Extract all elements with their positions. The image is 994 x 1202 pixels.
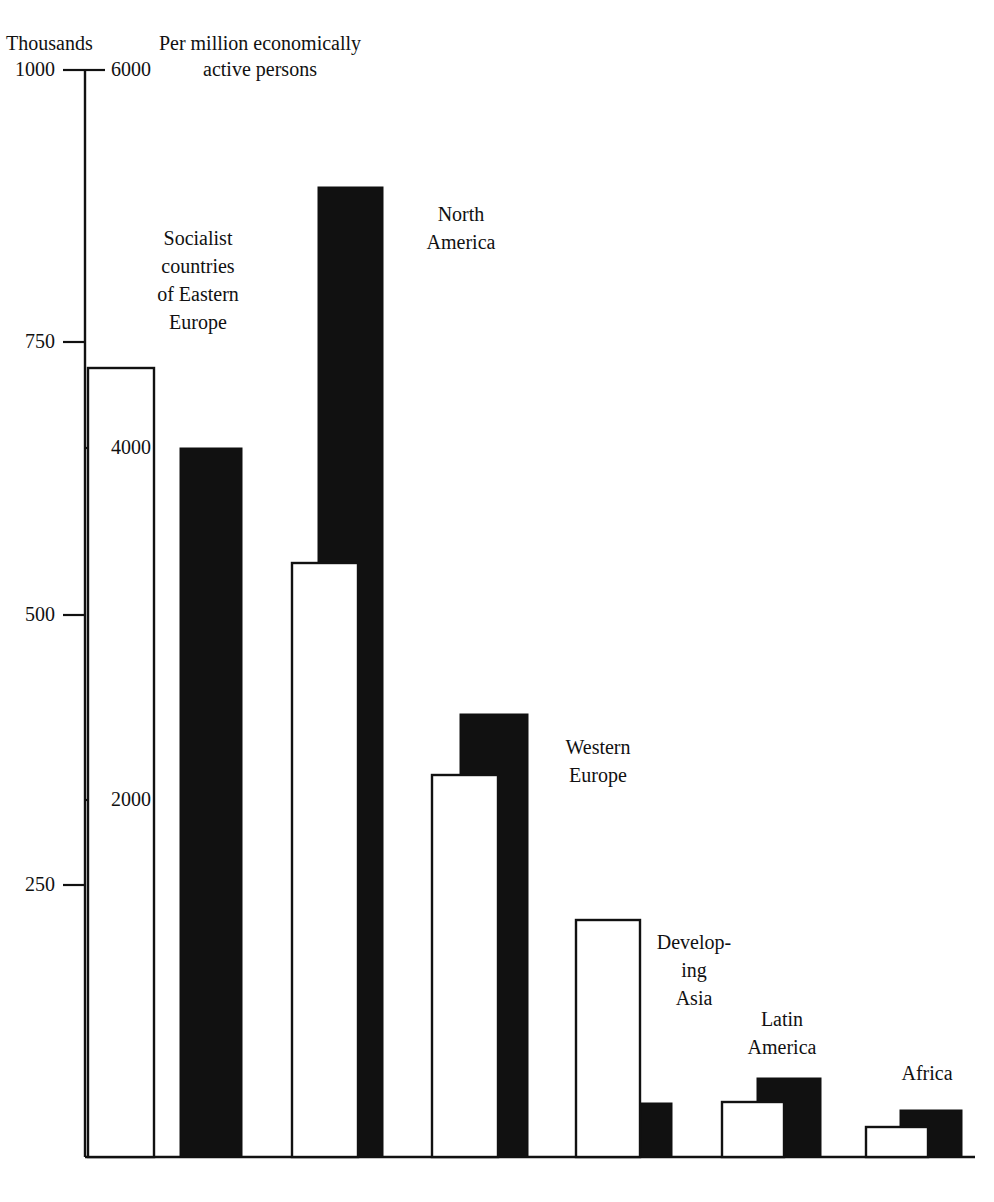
bar-group-label-line: Develop-: [657, 931, 731, 953]
bar-group-label-line: Africa: [901, 1062, 952, 1084]
bar-group-label-line: countries: [161, 255, 234, 277]
bar-group-label-3: Develop-ingAsia: [634, 928, 754, 1012]
chart-root: Thousands Per million economically activ…: [0, 0, 994, 1202]
left-tick-label-3: 250: [0, 874, 55, 894]
bar-group-label-1: NorthAmerica: [396, 200, 526, 256]
left-tick-label-2: 500: [0, 604, 55, 624]
bar-group-label-line: Latin: [761, 1008, 803, 1030]
bar-group-label-4: LatinAmerica: [716, 1005, 848, 1061]
bar-group-label-line: Socialist: [164, 227, 233, 249]
bar-white-5: [866, 1127, 928, 1157]
bar-white-2: [432, 775, 498, 1157]
bar-white-3: [576, 920, 640, 1157]
bar-white-0: [88, 368, 154, 1157]
bar-group-label-line: North: [438, 203, 485, 225]
bar-group-label-line: Asia: [676, 987, 713, 1009]
right-tick-label-1: 4000: [111, 437, 151, 457]
right-tick-label-0: 6000: [111, 59, 151, 79]
bar-black-0: [180, 448, 242, 1157]
bar-group-label-line: America: [427, 231, 496, 253]
bar-group-label-line: of Eastern: [157, 283, 239, 305]
bar-group-label-line: Western: [565, 736, 630, 758]
bar-group-label-line: Europe: [169, 311, 227, 333]
right-tick-label-2: 2000: [111, 789, 151, 809]
left-tick-label-1: 750: [0, 331, 55, 351]
bar-group-label-line: America: [748, 1036, 817, 1058]
left-tick-label-0: 1000: [0, 59, 55, 79]
bar-group-label-line: Europe: [569, 764, 627, 786]
bar-group-label-5: Africa: [872, 1059, 982, 1087]
bar-group-label-0: Socialistcountriesof EasternEurope: [118, 224, 278, 336]
bar-white-1: [292, 563, 358, 1157]
bar-white-4: [722, 1102, 784, 1157]
bar-group-label-line: ing: [681, 959, 707, 981]
bar-group-label-2: WesternEurope: [528, 733, 668, 789]
